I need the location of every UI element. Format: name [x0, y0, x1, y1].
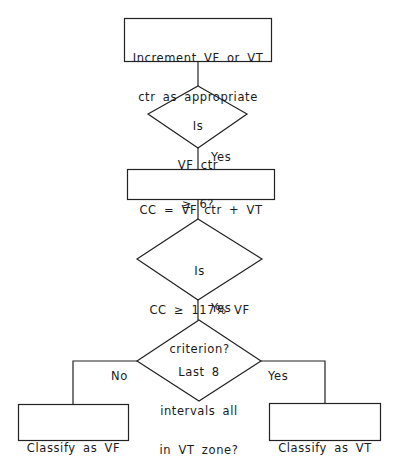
last8-line-3: in VT zone? — [137, 444, 261, 457]
classify-vf-label: Classify as VF — [18, 442, 129, 455]
vf-ctr-line-1: Is — [148, 120, 248, 133]
cc-calc-text: CC = VF ctr + VT — [127, 178, 275, 243]
cc-check-line-2: CC ≥ 117% VF — [137, 304, 262, 317]
last8-decision-text: Last 8 intervals all in VT zone? — [137, 340, 261, 460]
cc-calc-line-1: CC = VF ctr + VT — [127, 204, 275, 217]
increment-line-1: Increment VF or VT — [124, 52, 272, 65]
flowchart: Increment VF or VT ctr as appropriate Is… — [0, 0, 394, 460]
edge-label-yes: Yes — [268, 370, 288, 383]
classify-vf-text: Classify as VF — [18, 416, 129, 460]
vf-ctr-line-2: VF ctr — [148, 159, 248, 172]
edge-label-yes: Yes — [211, 151, 231, 164]
edge-label-yes: Yes — [211, 302, 231, 315]
last8-line-1: Last 8 — [137, 366, 261, 379]
last8-line-2: intervals all — [137, 405, 261, 418]
classify-vt-label: Classify as VT — [269, 442, 381, 455]
cc-check-line-1: Is — [137, 265, 262, 278]
classify-vt-text: Classify as VT — [269, 416, 381, 460]
edge-label-no: No — [111, 370, 128, 383]
